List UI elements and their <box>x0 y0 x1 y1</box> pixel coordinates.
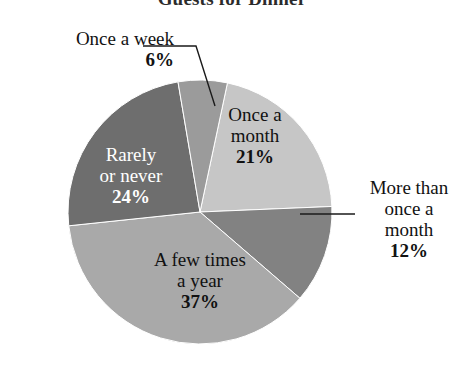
slice-percent-rarely-or-never: 24% <box>79 186 183 207</box>
slice-callout-label-line3-more-than-once-a-month: month <box>385 219 434 240</box>
slice-callout-percent-more-than-once-a-month: 12% <box>358 240 460 261</box>
slice-callout-once-a-week: Once a week 6% <box>6 28 174 70</box>
slice-label-line1-once-a-month: Once a <box>228 104 281 125</box>
slice-callout-percent-once-a-week: 6% <box>6 49 174 70</box>
slice-callout-label-line2-more-than-once-a-month: once a <box>384 198 433 219</box>
slice-label-line2-rarely-or-never: or never <box>100 165 163 186</box>
slice-callout-label-once-a-week: Once a week <box>76 28 174 49</box>
slice-label-once-a-month: Once a month 21% <box>203 104 307 167</box>
slice-callout-more-than-once-a-month: More than once a month 12% <box>358 177 460 261</box>
slice-callout-label-line1-more-than-once-a-month: More than <box>370 177 449 198</box>
slice-label-a-few-times-a-year: A few times a year 37% <box>118 249 282 312</box>
pie-chart-figure: Guests for Dinner Once a week 6% More th… <box>0 0 464 365</box>
slice-label-line1-a-few-times-a-year: A few times <box>154 249 246 270</box>
slice-label-rarely-or-never: Rarely or never 24% <box>79 144 183 207</box>
slice-label-line2-a-few-times-a-year: a year <box>177 270 223 291</box>
slice-label-line2-once-a-month: month <box>231 125 280 146</box>
slice-label-line1-rarely-or-never: Rarely <box>106 144 157 165</box>
slice-percent-a-few-times-a-year: 37% <box>118 291 282 312</box>
slice-percent-once-a-month: 21% <box>203 146 307 167</box>
